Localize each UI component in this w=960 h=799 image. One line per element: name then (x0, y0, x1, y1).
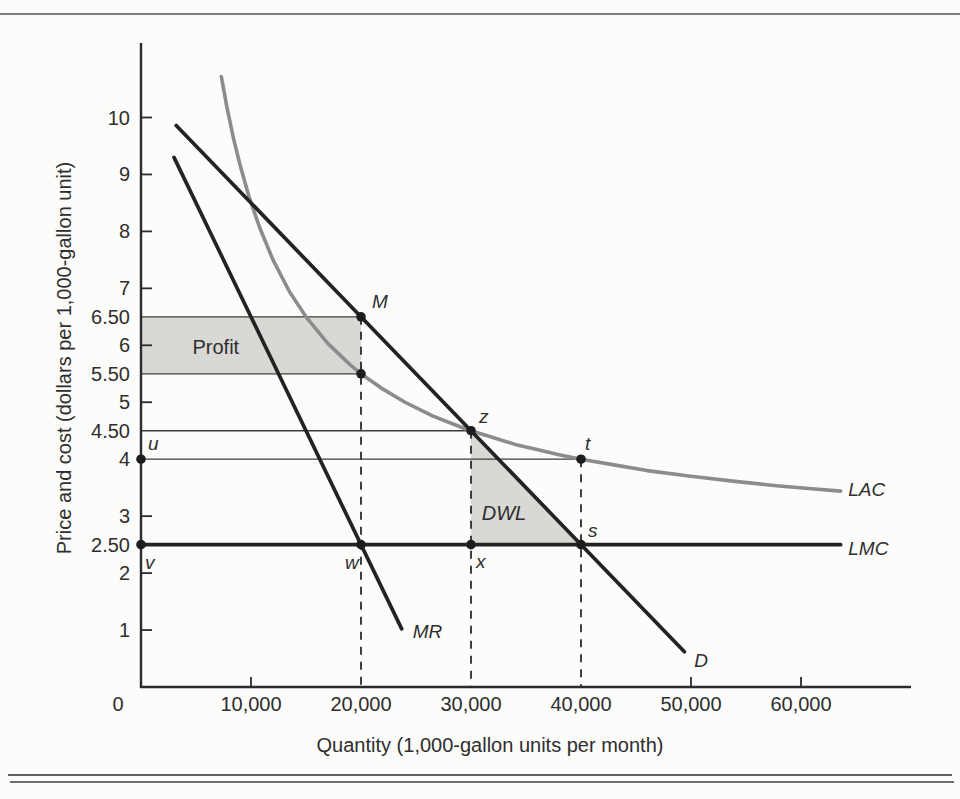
x-tick-label-0: 0 (112, 693, 123, 715)
point-s (576, 540, 586, 550)
x-tick-label-20,000: 20,000 (330, 693, 391, 715)
point-lac-at-20000 (356, 369, 366, 379)
point-label-v: v (145, 552, 156, 573)
point-label-M: M (372, 291, 388, 312)
x-tick-label-40,000: 40,000 (550, 693, 611, 715)
curve-marginal-revenue (174, 157, 402, 629)
y-axis-title: Price and cost (dollars per 1,000-gallon… (53, 162, 75, 554)
y-tick-label-1: 1 (119, 619, 130, 641)
y-tick-label-5.50: 5.50 (91, 363, 130, 385)
x-tick-label-60,000: 60,000 (770, 693, 831, 715)
y-tick-label-10: 10 (108, 107, 130, 129)
x-axis-title: Quantity (1,000-gallon units per month) (317, 734, 664, 756)
y-tick-label-3: 3 (119, 505, 130, 527)
y-tick-label-7: 7 (119, 277, 130, 299)
point-t (576, 454, 586, 464)
y-tick-label-8: 8 (119, 220, 130, 242)
point-label-u: u (148, 433, 159, 454)
bottom-divider-rule-inner (10, 781, 954, 783)
point-v (136, 540, 146, 550)
x-tick-label-30,000: 30,000 (440, 693, 501, 715)
point-u (136, 454, 146, 464)
x-tick-label-50,000: 50,000 (660, 693, 721, 715)
region-label-DWL: DWL (482, 502, 526, 524)
curve-label-LAC: LAC (848, 479, 885, 500)
y-tick-label-2.50: 2.50 (91, 534, 130, 556)
y-tick-label-6.50: 6.50 (91, 306, 130, 328)
region-label-Profit: Profit (192, 336, 239, 358)
point-M (356, 312, 366, 322)
y-tick-label-4: 4 (119, 448, 130, 470)
point-z (466, 426, 476, 436)
page: { "figure": { "description": "Monopoly p… (0, 0, 960, 799)
curve-long-run-average-cost (221, 76, 840, 491)
y-tick-label-9: 9 (119, 163, 130, 185)
y-tick-label-6: 6 (119, 334, 130, 356)
y-tick-label-2: 2 (119, 562, 130, 584)
point-label-w: w (345, 552, 360, 573)
curve-label-D: D (694, 650, 708, 671)
y-tick-label-4.50: 4.50 (91, 420, 130, 442)
point-label-t: t (585, 433, 591, 454)
point-w (356, 540, 366, 550)
monopoly-dwl-chart: 109876.5065.5054.50432.5021010,00020,000… (0, 0, 960, 799)
point-label-s: s (588, 520, 598, 541)
point-x (466, 540, 476, 550)
curve-demand (176, 125, 684, 651)
curve-label-LMC: LMC (848, 538, 888, 559)
bottom-divider-rule-outer (8, 774, 952, 776)
x-tick-label-10,000: 10,000 (220, 693, 281, 715)
curve-label-MR: MR (413, 621, 443, 642)
point-label-x: x (475, 551, 487, 572)
y-tick-label-5: 5 (119, 391, 130, 413)
point-label-z: z (478, 406, 489, 427)
